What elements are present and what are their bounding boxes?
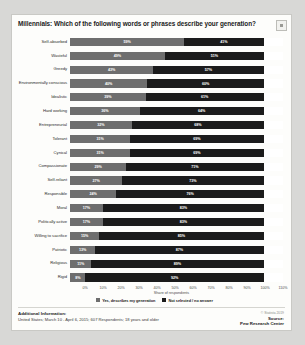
legend-label-yes: Yes, describes my generation [102,298,155,303]
bar-value-label: 24% [90,192,97,196]
bar-segment-yes[interactable]: 49% [70,52,165,60]
source-name: Pew Research Center [198,321,284,326]
bar-segment-yes[interactable]: 31% [70,135,130,143]
bar-value-label: 69% [193,151,200,155]
bar-value-label: 83% [180,220,187,224]
bar-segment-no[interactable]: 64% [140,107,264,115]
chart-plot-area: Self-absorbed59%41%Wasteful49%51%Greedy4… [18,35,283,285]
stacked-bar: 40%60% [70,79,283,87]
bar-value-label: 83% [180,206,187,210]
bar-segment-yes[interactable]: 11% [70,260,91,268]
legend-label-no: Not selected / no answer [168,298,212,303]
table-row: Self-reliant27%73% [18,174,283,188]
stacked-bar: 59%41% [70,38,283,46]
legend-item-no[interactable]: Not selected / no answer [162,298,212,303]
category-label: Patriotic [18,248,70,252]
bar-value-label: 43% [108,68,115,72]
bar-value-label: 13% [79,248,86,252]
expand-button[interactable] [276,20,287,31]
bar-segment-no[interactable]: 73% [122,176,263,184]
table-row: Politically active17%83% [18,215,283,229]
table-row: Entrepreneurial32%68% [18,118,283,132]
bar-segment-yes[interactable]: 17% [70,204,103,212]
additional-information-text: United States; March 10 - April 6, 2015;… [18,317,192,323]
bar-segment-no[interactable]: 69% [130,135,264,143]
bar-segment-yes[interactable]: 32% [70,121,132,129]
bar-segment-yes[interactable]: 43% [70,66,153,74]
stacked-bar: 43%57% [70,66,283,74]
bar-segment-yes[interactable]: 15% [70,232,99,240]
bar-segment-no[interactable]: 69% [130,149,264,157]
category-label: Hard working [18,109,70,113]
table-row: Responsible24%76% [18,187,283,201]
stacked-bar: 8%92% [70,273,283,281]
stacked-bar: 31%69% [70,135,283,143]
stacked-bar: 32%68% [70,121,283,129]
bar-segment-no[interactable]: 51% [165,52,264,60]
category-label: Rigid [18,275,70,279]
bar-segment-no[interactable]: 89% [91,260,263,268]
bar-value-label: 8% [75,276,80,280]
category-label: Cynical [18,151,70,155]
bar-segment-no[interactable]: 68% [132,121,264,129]
bar-value-label: 64% [198,109,205,113]
bar-segment-yes[interactable]: 39% [70,93,146,101]
additional-information: Additional Information: United States; M… [18,311,192,327]
bar-segment-yes[interactable]: 8% [70,273,85,281]
chart-header: Millennials: Which of the following word… [12,15,291,34]
chart-card: Millennials: Which of the following word… [11,14,292,331]
stacked-bar: 27%73% [70,176,283,184]
bar-segment-yes[interactable]: 17% [70,218,103,226]
category-label: Self-absorbed [18,40,70,44]
additional-information-label: Additional Information: [18,311,192,316]
category-label: Politically active [18,220,70,224]
table-row: Idealistic39%61% [18,90,283,104]
bar-segment-no[interactable]: 60% [147,79,263,87]
category-label: Responsible [18,192,70,196]
bar-segment-no[interactable]: 83% [103,204,264,212]
stacked-bar: 17%83% [70,218,283,226]
legend-item-yes[interactable]: Yes, describes my generation [96,298,155,303]
bar-segment-yes[interactable]: 40% [70,79,147,87]
table-row: Religious11%89% [18,257,283,271]
bar-segment-yes[interactable]: 13% [70,246,95,254]
table-row: Moral17%83% [18,201,283,215]
bar-value-label: 15% [81,234,88,238]
bar-segment-no[interactable]: 83% [103,218,264,226]
table-row: Patriotic13%87% [18,243,283,257]
stacked-bar: 31%69% [70,149,283,157]
bar-value-label: 17% [83,206,90,210]
stacked-bar: 39%61% [70,93,283,101]
category-label: Tolerant [18,137,70,141]
bar-value-label: 59% [124,40,131,44]
bar-value-label: 36% [101,109,108,113]
bar-value-label: 68% [194,123,201,127]
bar-segment-no[interactable]: 71% [126,163,263,171]
bar-segment-yes[interactable]: 27% [70,176,122,184]
category-label: Entrepreneurial [18,123,70,127]
table-row: Willing to sacrifice15%85% [18,229,283,243]
table-row: Wasteful49%51% [18,49,283,63]
x-axis-tick: 50% [166,286,184,290]
bar-segment-yes[interactable]: 59% [70,38,184,46]
bar-segment-no[interactable]: 41% [184,38,263,46]
bar-value-label: 29% [94,165,101,169]
bar-segment-no[interactable]: 57% [153,66,263,74]
bar-segment-yes[interactable]: 29% [70,163,126,171]
bar-value-label: 11% [77,262,84,266]
bar-segment-no[interactable]: 92% [85,273,263,281]
stacked-bar: 36%64% [70,107,283,115]
category-label: Greedy [18,67,70,71]
bar-segment-yes[interactable]: 24% [70,190,116,198]
bar-segment-no[interactable]: 85% [99,232,264,240]
x-axis-tick: 10% [94,286,112,290]
bar-segment-yes[interactable]: 31% [70,149,130,157]
chart-footer: Additional Information: United States; M… [12,308,291,331]
bar-value-label: 87% [176,248,183,252]
bar-segment-no[interactable]: 61% [146,93,264,101]
table-row: Tolerant31%69% [18,132,283,146]
bar-segment-yes[interactable]: 36% [70,107,140,115]
bar-segment-no[interactable]: 87% [95,246,263,254]
bar-segment-no[interactable]: 76% [116,190,263,198]
x-axis-tick: 40% [148,286,166,290]
